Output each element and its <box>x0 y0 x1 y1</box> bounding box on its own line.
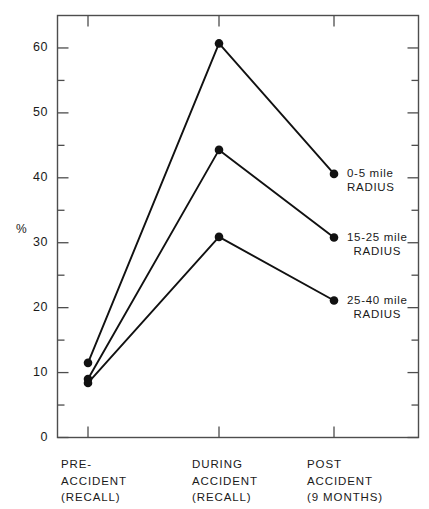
series-label-line1: 15-25 mile <box>347 231 408 243</box>
x-category-label-0: PRE-ACCIDENT(RECALL) <box>61 456 127 506</box>
x-category-line: ACCIDENT <box>307 473 383 490</box>
x-category-line: ACCIDENT <box>61 473 127 490</box>
data-point-marker <box>215 39 224 48</box>
axis-ticks <box>58 16 419 438</box>
data-point-marker <box>330 296 339 305</box>
y-tick-label-50: 50 <box>10 105 48 119</box>
data-point-marker <box>215 233 224 242</box>
x-category-line: POST <box>307 456 383 473</box>
series-label-line1: 25-40 mile <box>347 294 408 306</box>
series-label-0: 0-5 mileRADIUS <box>347 166 395 194</box>
y-tick-label-40: 40 <box>10 170 48 184</box>
x-category-line: (RECALL) <box>192 489 258 506</box>
y-tick-label-20: 20 <box>10 300 48 314</box>
data-point-marker <box>330 233 339 242</box>
x-category-line: PRE- <box>61 456 127 473</box>
series-label-1: 15-25 mileRADIUS <box>347 230 408 258</box>
y-tick-label-0: 0 <box>10 430 48 444</box>
x-category-line: (9 MONTHS) <box>307 489 383 506</box>
data-point-marker <box>215 146 224 155</box>
y-tick-label-30: 30 <box>10 235 48 249</box>
series-label-2: 25-40 mileRADIUS <box>347 293 408 321</box>
series-label-line2: RADIUS <box>347 180 395 194</box>
data-point-marker <box>84 379 93 388</box>
x-category-label-1: DURINGACCIDENT(RECALL) <box>192 456 258 506</box>
series-line-1 <box>88 150 334 379</box>
x-category-line: ACCIDENT <box>192 473 258 490</box>
data-point-marker <box>84 359 93 368</box>
x-category-line: (RECALL) <box>61 489 127 506</box>
series-label-line2: RADIUS <box>347 244 408 258</box>
series-label-line1: 0-5 mile <box>347 167 394 179</box>
series-label-line2: RADIUS <box>347 307 408 321</box>
series-line-2 <box>88 237 334 383</box>
y-axis-label: % <box>16 222 27 236</box>
y-tick-label-60: 60 <box>10 40 48 54</box>
x-category-line: DURING <box>192 456 258 473</box>
chart-figure: 0102030405060 % 0-5 mileRADIUS15-25 mile… <box>0 0 429 509</box>
data-point-marker <box>330 170 339 179</box>
x-category-label-2: POSTACCIDENT(9 MONTHS) <box>307 456 383 506</box>
y-tick-label-10: 10 <box>10 365 48 379</box>
data-series-group <box>84 39 339 387</box>
axis-frame <box>58 16 419 438</box>
